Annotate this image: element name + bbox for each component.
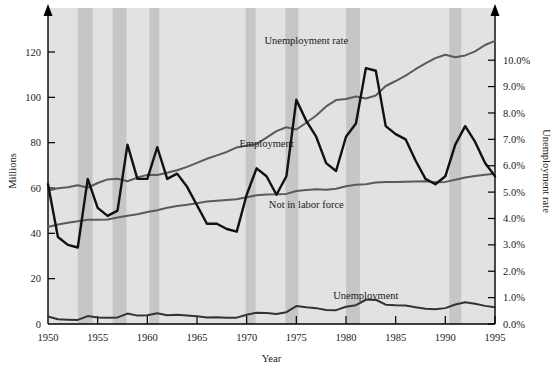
x-tick-label-1965: 1965	[187, 332, 208, 343]
right-tick-label-5.0%: 5.0%	[503, 187, 525, 198]
right-tick-label-0.0%: 0.0%	[503, 319, 525, 330]
recession-band-0	[78, 8, 93, 324]
left-tick-label-100: 100	[25, 92, 41, 103]
left-tick-label-40: 40	[31, 228, 42, 239]
x-tick-label-1980: 1980	[336, 332, 357, 343]
y2-axis-title: Unemployment rate	[541, 129, 552, 213]
right-tick-label-4.0%: 4.0%	[503, 213, 525, 224]
right-tick-label-7.0%: 7.0%	[503, 134, 525, 145]
x-tick-label-1975: 1975	[286, 332, 307, 343]
left-tick-label-80: 80	[31, 137, 42, 148]
y-axis-title: Millions	[7, 153, 18, 189]
x-tick-label-1985: 1985	[385, 332, 406, 343]
right-tick-label-9.0%: 9.0%	[503, 81, 525, 92]
unemployment-employment-line-chart: 020406080100120 0.0%1.0%2.0%3.0%4.0%5.0%…	[0, 0, 557, 370]
right-tick-label-3.0%: 3.0%	[503, 239, 525, 250]
right-tick-label-6.0%: 6.0%	[503, 160, 525, 171]
left-tick-label-20: 20	[31, 273, 42, 284]
x-tick-label-1955: 1955	[87, 332, 108, 343]
series-label-unemployment: Unemployment	[333, 290, 398, 301]
recession-band-3	[246, 8, 256, 324]
left-tick-label-60: 60	[31, 183, 42, 194]
x-axis-title: Year	[262, 353, 282, 364]
chart-container: 020406080100120 0.0%1.0%2.0%3.0%4.0%5.0%…	[0, 0, 557, 370]
series-label-employment: Employment	[239, 138, 293, 149]
x-tick-label-1970: 1970	[236, 332, 257, 343]
right-tick-label-10.0%: 10.0%	[503, 55, 530, 66]
left-tick-label-120: 120	[25, 47, 41, 58]
series-label-not-in-labor-force: Not in labor force	[269, 199, 344, 210]
right-tick-label-8.0%: 8.0%	[503, 108, 525, 119]
x-tick-label-1995: 1995	[485, 332, 506, 343]
right-tick-label-1.0%: 1.0%	[503, 292, 525, 303]
right-tick-label-2.0%: 2.0%	[503, 266, 525, 277]
left-tick-label-0: 0	[36, 319, 41, 330]
recession-band-5	[346, 8, 360, 324]
x-tick-label-1990: 1990	[435, 332, 456, 343]
x-tick-label-1950: 1950	[38, 332, 59, 343]
series-label-unemployment-rate: Unemployment rate	[264, 35, 348, 46]
x-tick-label-1960: 1960	[137, 332, 158, 343]
